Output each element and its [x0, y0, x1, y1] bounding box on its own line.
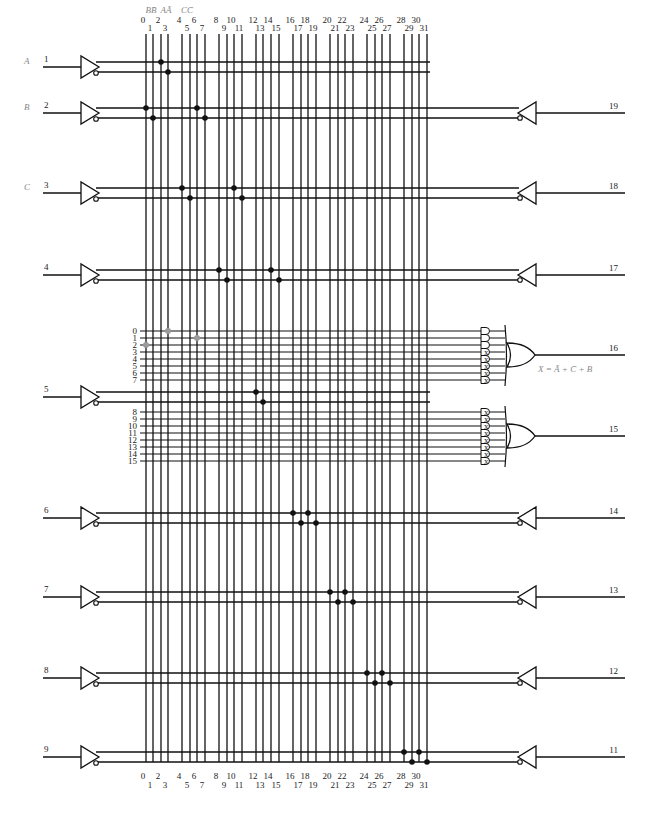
connection-dot	[298, 520, 304, 526]
column-top-label: 15	[272, 23, 282, 33]
connection-dot	[372, 680, 378, 686]
and-gate-icon	[481, 328, 490, 335]
column-top-label: 19	[309, 23, 319, 33]
input-pin-label: 7	[44, 584, 49, 594]
connection-dot	[364, 670, 370, 676]
column-bottom-label: 3	[163, 780, 168, 790]
column-lines	[146, 34, 427, 762]
connection-dot	[409, 759, 415, 765]
connection-dot	[401, 749, 407, 755]
output-pin-label: 13	[609, 585, 619, 595]
column-bottom-label: 5	[185, 780, 190, 790]
connection-dot	[260, 399, 266, 405]
connection-dot	[424, 759, 430, 765]
connection-dot	[416, 749, 422, 755]
column-top-label: 1	[148, 23, 153, 33]
product-term-label: 15	[128, 456, 138, 466]
or-gate-icon	[507, 424, 535, 448]
input-pin-label: 4	[44, 262, 49, 272]
column-top-label: 8	[214, 15, 219, 25]
column-labels: 0011223344556677889910101111121213131414…	[141, 5, 429, 790]
column-top-label: 5	[185, 23, 190, 33]
inverter-bubble-icon	[94, 71, 99, 76]
output-pin-label: 15	[609, 424, 619, 434]
inverter-bubble-icon	[518, 681, 523, 686]
pal-fuse-map-diagram: 0011223344556677889910101111121213131414…	[0, 0, 662, 821]
column-bottom-label: 15	[272, 780, 282, 790]
connection-dot	[150, 115, 156, 121]
connection-dot	[305, 510, 311, 516]
inverter-bubble-icon	[94, 401, 99, 406]
inverter-bubble-icon	[518, 600, 523, 605]
connection-dot	[187, 195, 193, 201]
inverter-bubble-icon	[518, 116, 523, 121]
output-pin-label: 12	[609, 666, 618, 676]
column-bottom-label: 19	[309, 780, 319, 790]
output-pin-label: 19	[609, 101, 619, 111]
connection-dot	[290, 510, 296, 516]
header-signal-label: CC̄	[181, 5, 194, 15]
inverter-bubble-icon	[94, 682, 99, 687]
input-signal-label: A	[23, 56, 30, 66]
connection-dot	[313, 520, 319, 526]
column-top-label: 23	[346, 23, 356, 33]
inverter-bubble-icon	[518, 278, 523, 283]
connection-dot	[224, 277, 230, 283]
or-input-bus	[505, 406, 507, 467]
column-top-label: 7	[200, 23, 205, 33]
connection-dot	[158, 59, 164, 65]
equation-label: X = Ā + C̄ + B	[537, 364, 593, 374]
column-bottom-label: 7	[200, 780, 205, 790]
inverter-bubble-icon	[518, 196, 523, 201]
and-gate-icon	[481, 335, 490, 342]
column-bottom-label: 21	[331, 780, 340, 790]
column-bottom-label: 2	[156, 771, 161, 781]
column-bottom-label: 1	[148, 780, 153, 790]
column-bottom-label: 29	[405, 780, 415, 790]
connection-dot	[342, 589, 348, 595]
input-pin-label: 8	[44, 665, 49, 675]
product-term-array: 0123x4x5x6x7x168x9x10x11x12x13x14x15x15	[128, 325, 625, 467]
connection-dot	[165, 69, 171, 75]
header-signal-label: BB̄	[146, 5, 157, 15]
inverter-bubble-icon	[518, 521, 523, 526]
column-top-label: 31	[420, 23, 429, 33]
connection-dot	[143, 105, 149, 111]
input-signal-label: C	[24, 182, 31, 192]
connection-dot	[239, 195, 245, 201]
column-top-label: 0	[141, 15, 146, 25]
column-bottom-label: 27	[383, 780, 393, 790]
input-pin-label: 5	[44, 384, 49, 394]
connection-dot	[194, 105, 200, 111]
inverter-bubble-icon	[94, 197, 99, 202]
output-pin-label: 16	[609, 343, 619, 353]
column-bottom-label: 11	[235, 780, 244, 790]
connection-dot	[379, 670, 385, 676]
connection-dot	[253, 389, 259, 395]
fuse-dot	[194, 335, 200, 341]
column-bottom-label: 8	[214, 771, 219, 781]
inverter-bubble-icon	[94, 117, 99, 122]
output-pin-label: 18	[609, 181, 619, 191]
connection-dot	[350, 599, 356, 605]
inverter-bubble-icon	[94, 601, 99, 606]
input-pin-label: 3	[44, 180, 49, 190]
connection-dot	[202, 115, 208, 121]
connection-dot	[231, 185, 237, 191]
column-bottom-label: 9	[222, 780, 227, 790]
fuse-x-mark: x	[484, 456, 489, 466]
connection-dot	[327, 589, 333, 595]
column-bottom-label: 0	[141, 771, 146, 781]
output-pin-label: 11	[609, 745, 618, 755]
column-bottom-label: 17	[294, 780, 304, 790]
column-bottom-label: 6	[192, 771, 197, 781]
fuse-dot	[143, 342, 149, 348]
input-pin-label: 6	[44, 505, 49, 515]
connection-dot	[387, 680, 393, 686]
or-gate-icon	[507, 343, 535, 367]
fuse-dot	[165, 328, 171, 334]
column-top-label: 6	[192, 15, 197, 25]
connection-dot	[216, 267, 222, 273]
connection-dot	[179, 185, 185, 191]
connection-dot	[276, 277, 282, 283]
